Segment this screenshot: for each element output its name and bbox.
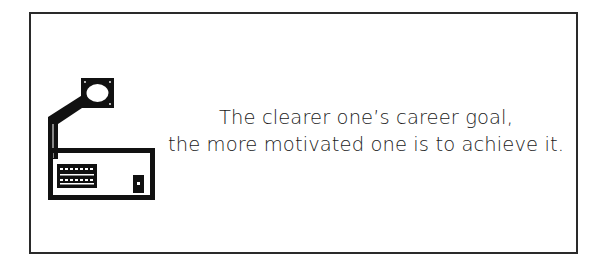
quote-line-1: The clearer one’s career goal, bbox=[150, 104, 582, 131]
career-goal-quote: The clearer one’s career goal, the more … bbox=[150, 104, 582, 158]
quote-line-2: the more motivated one is to achieve it. bbox=[150, 131, 582, 158]
desk-lamp-workstation-icon bbox=[44, 74, 160, 202]
